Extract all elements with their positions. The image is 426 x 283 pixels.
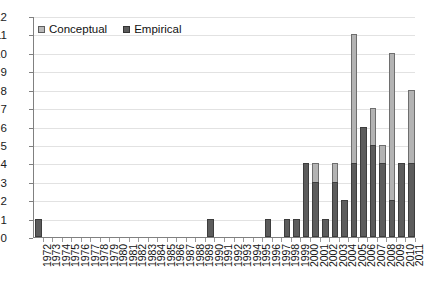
bar-segment-empirical [293,219,300,237]
bar-chart: Conceptual Empirical 1211109876543210 19… [0,0,426,283]
bar-group [330,16,340,237]
x-axis-tick-mark [243,238,244,242]
x-axis-tick-mark [129,238,130,242]
bar-group [101,16,111,237]
bar-group [397,16,407,237]
bar-group [82,16,92,237]
bar-group [235,16,245,237]
bar-segment-empirical [312,182,319,237]
x-axis-tick-mark [253,238,254,242]
bar-group [321,16,331,237]
bar-segment-empirical [341,200,348,237]
x-axis-tick-mark [195,238,196,242]
x-axis-tick-mark [62,238,63,242]
x-axis-tick-mark [320,238,321,242]
bar-segment-conceptual [312,163,319,181]
x-axis-tick-mark [396,238,397,242]
bar-group [244,16,254,237]
bar-group [340,16,350,237]
y-axis-tick-label: 5 [0,141,7,153]
x-axis-tick-mark [148,238,149,242]
bar-group [263,16,273,237]
x-axis-tick-mark [224,238,225,242]
bar-group [158,16,168,237]
bar-group [273,16,283,237]
x-axis-tick-mark [272,238,273,242]
x-axis-tick-mark [109,238,110,242]
bar-segment-conceptual [351,34,358,163]
bar-segment-empirical [265,219,272,237]
x-axis-tick-mark [176,238,177,242]
bar-group [53,16,63,237]
y-axis-tick-label: 8 [0,86,7,98]
bar-segment-empirical [370,145,377,237]
bar-segment-empirical [398,163,405,237]
bar-group [110,16,120,237]
bar-group [378,16,388,237]
bar-group [177,16,187,237]
bar-segment-empirical [332,182,339,237]
bar-group [292,16,302,237]
bar-group [359,16,369,237]
y-axis-tick-label: 0 [0,233,7,245]
bar-segment-empirical [379,163,386,237]
x-axis-tick-mark [186,238,187,242]
bar-group [254,16,264,237]
y-axis-tick-label: 10 [0,49,7,61]
bar-segment-empirical [360,127,367,238]
bar-group [91,16,101,237]
plot-area [33,17,415,238]
bar-group [206,16,216,237]
x-axis-tick-mark [100,238,101,242]
y-axis-tick-label: 11 [0,30,7,42]
x-axis-tick-mark [300,238,301,242]
bar-segment-conceptual [379,145,386,163]
x-axis-tick-mark [157,238,158,242]
y-axis-tick-label: 12 [0,12,7,24]
bar-group [72,16,82,237]
x-axis-tick-mark [329,238,330,242]
x-axis-tick-mark [281,238,282,242]
y-axis-tick-label: 9 [0,67,7,79]
bar-segment-empirical [303,163,310,237]
bar-group [149,16,159,237]
bar-group [187,16,197,237]
x-axis-tick-mark [52,238,53,242]
bar-group [130,16,140,237]
x-axis-tick-mark [205,238,206,242]
x-axis-tick-mark [367,238,368,242]
bar-group [34,16,44,237]
bar-group [368,16,378,237]
bar-group [168,16,178,237]
bar-group [215,16,225,237]
x-axis-tick-mark [138,238,139,242]
bar-group [301,16,311,237]
x-axis-tick-mark [43,238,44,242]
bar-group [120,16,130,237]
bar-segment-conceptual [389,53,396,200]
bar-segment-empirical [284,219,291,237]
x-axis-tick-mark [119,238,120,242]
x-axis-tick-mark [386,238,387,242]
x-axis-tick-mark [348,238,349,242]
bar-segment-empirical [389,200,396,237]
bar-group [387,16,397,237]
bar-segment-empirical [408,163,415,237]
y-axis-tick-mark [29,238,33,239]
bar-group [311,16,321,237]
x-axis-tick-mark [81,238,82,242]
x-axis-tick-label: 2011 [414,244,425,266]
x-axis-tick-mark [90,238,91,242]
y-axis-tick-label: 3 [0,178,7,190]
bar-segment-conceptual [408,90,415,164]
bar-segment-empirical [351,163,358,237]
bar-group [44,16,54,237]
y-axis-tick-label: 2 [0,196,7,208]
x-axis-tick-mark [415,238,416,242]
y-axis-tick-label: 6 [0,123,7,135]
bar-segment-empirical [322,219,329,237]
y-axis-tick-label: 1 [0,215,7,227]
x-axis-tick-mark [377,238,378,242]
bar-group [196,16,206,237]
bar-group [63,16,73,237]
